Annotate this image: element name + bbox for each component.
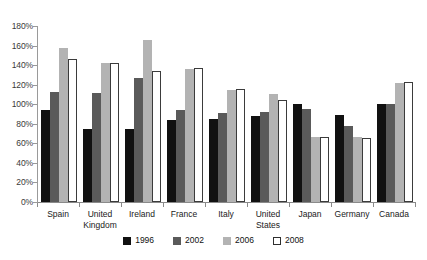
bar-group bbox=[377, 26, 413, 202]
bar-1996 bbox=[251, 116, 260, 202]
bar-group bbox=[125, 26, 161, 202]
bar-2002 bbox=[302, 109, 311, 202]
bar-group bbox=[167, 26, 203, 202]
bar-1996 bbox=[83, 129, 92, 202]
legend-item-2002[interactable]: 2002 bbox=[173, 236, 204, 245]
y-axis-label: 120% bbox=[1, 81, 33, 90]
bar-2002 bbox=[218, 113, 227, 202]
bar-2006 bbox=[59, 48, 68, 202]
bar-1996 bbox=[41, 110, 50, 202]
legend-item-1996[interactable]: 1996 bbox=[123, 236, 154, 245]
bar-2006 bbox=[101, 63, 110, 202]
legend-label: 1996 bbox=[135, 236, 154, 245]
bar-1996 bbox=[377, 104, 386, 202]
bar-2008 bbox=[68, 59, 77, 202]
bar-2006 bbox=[311, 137, 320, 203]
legend-label: 2002 bbox=[185, 236, 204, 245]
bar-1996 bbox=[335, 115, 344, 202]
y-axis-label: 160% bbox=[1, 42, 33, 51]
bar-2006 bbox=[227, 90, 236, 202]
x-axis-tick bbox=[247, 203, 248, 207]
bar-group bbox=[41, 26, 77, 202]
bar-1996 bbox=[125, 129, 134, 202]
bar-group bbox=[335, 26, 371, 202]
bar-1996 bbox=[209, 119, 218, 202]
bar-2006 bbox=[269, 94, 278, 202]
bar-group bbox=[83, 26, 119, 202]
y-axis-label: 0% bbox=[1, 198, 33, 207]
bar-2008 bbox=[110, 63, 119, 202]
bar-1996 bbox=[167, 120, 176, 202]
bar-group bbox=[293, 26, 329, 202]
bar-2002 bbox=[92, 93, 101, 202]
bar-group bbox=[251, 26, 287, 202]
bar-2008 bbox=[194, 68, 203, 202]
bar-2002 bbox=[134, 78, 143, 202]
legend-item-2008[interactable]: 2008 bbox=[273, 236, 304, 245]
x-axis-category-label: Canada bbox=[367, 209, 421, 220]
legend-swatch-icon bbox=[223, 237, 231, 245]
x-axis-tick bbox=[79, 203, 80, 207]
x-axis-tick bbox=[121, 203, 122, 207]
x-axis-tick bbox=[37, 203, 38, 207]
chart-legend: 1996200220062008 bbox=[0, 236, 427, 245]
y-axis-label: 180% bbox=[1, 22, 33, 31]
bar-2002 bbox=[386, 104, 395, 202]
x-axis-tick bbox=[289, 203, 290, 207]
y-axis-label: 20% bbox=[1, 178, 33, 187]
bar-2006 bbox=[395, 83, 404, 202]
y-axis-label: 100% bbox=[1, 100, 33, 109]
x-axis-tick bbox=[415, 203, 416, 207]
x-axis-tick bbox=[205, 203, 206, 207]
bar-2006 bbox=[185, 69, 194, 202]
legend-item-2006[interactable]: 2006 bbox=[223, 236, 254, 245]
legend-swatch-icon bbox=[123, 237, 131, 245]
bar-2008 bbox=[278, 100, 287, 202]
x-axis-line bbox=[37, 202, 416, 203]
bar-2006 bbox=[143, 40, 152, 202]
x-axis-tick bbox=[331, 203, 332, 207]
bar-2002 bbox=[344, 126, 353, 202]
bar-2008 bbox=[362, 138, 371, 202]
y-axis-label: 140% bbox=[1, 61, 33, 70]
y-axis-label: 60% bbox=[1, 139, 33, 148]
x-axis-tick bbox=[163, 203, 164, 207]
bar-2006 bbox=[353, 137, 362, 202]
bar-2002 bbox=[260, 112, 269, 202]
bar-2002 bbox=[50, 92, 59, 202]
legend-swatch-icon bbox=[273, 237, 281, 245]
plot-area bbox=[37, 26, 415, 202]
legend-label: 2008 bbox=[285, 236, 304, 245]
bar-2008 bbox=[152, 71, 161, 202]
y-axis-label: 80% bbox=[1, 120, 33, 129]
bar-group bbox=[209, 26, 245, 202]
y-axis-label: 40% bbox=[1, 159, 33, 168]
bar-2008 bbox=[236, 89, 245, 202]
bar-chart: 180%160%140%120%100%80%60%40%20%0% Spain… bbox=[0, 0, 427, 260]
bar-1996 bbox=[293, 104, 302, 202]
x-axis-tick bbox=[373, 203, 374, 207]
bar-2008 bbox=[320, 137, 329, 202]
bar-2008 bbox=[404, 82, 413, 202]
legend-label: 2006 bbox=[235, 236, 254, 245]
legend-swatch-icon bbox=[173, 237, 181, 245]
bar-2002 bbox=[176, 110, 185, 202]
